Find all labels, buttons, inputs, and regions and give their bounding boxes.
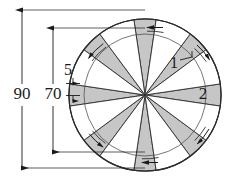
callout-label-2: 2 [199,84,208,103]
dimension-label-90: 90 [14,84,31,103]
callout-label-1: 1 [170,54,178,71]
dimension-label-70: 70 [45,84,62,103]
dimension-label-5: 5 [64,61,72,78]
technical-drawing: 90 70 5 1 2 [0,0,230,179]
diagram-canvas: 90 70 5 1 2 [0,0,230,179]
